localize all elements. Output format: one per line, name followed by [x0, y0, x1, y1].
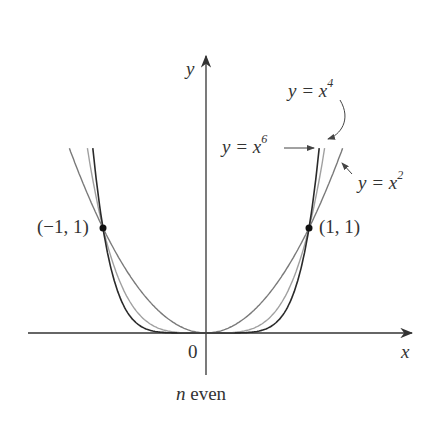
y-axis-label: y: [186, 58, 194, 80]
x4-arrow: [328, 100, 345, 139]
label-x6: y = x6: [222, 136, 267, 158]
caption: n even: [176, 383, 226, 405]
graph-canvas: [0, 0, 447, 429]
x2-arrow: [342, 163, 352, 174]
point-label-neg1-1: (−1, 1): [37, 216, 89, 238]
point-neg1-1: [100, 225, 107, 232]
point-label-1-1: (1, 1): [319, 216, 360, 238]
label-x4: y = x4: [288, 80, 333, 102]
point-1-1: [306, 225, 313, 232]
label-x2: y = x2: [358, 172, 403, 194]
origin-label: 0: [188, 341, 198, 363]
x-axis-label: x: [401, 341, 409, 363]
